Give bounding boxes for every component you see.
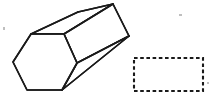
scan-speck-left: [3, 27, 5, 30]
hexagonal-prism: [13, 4, 129, 90]
dashed-answer-box[interactable]: [134, 58, 203, 91]
scan-speck-top-right: [179, 14, 182, 16]
figure-svg: [0, 0, 213, 103]
scan-speck-bottom-right: [207, 82, 209, 84]
figure-canvas: Hexagonal prism with empty dashed answer…: [0, 0, 213, 103]
